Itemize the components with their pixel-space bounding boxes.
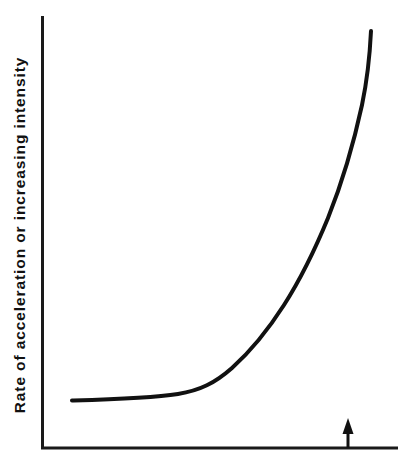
threshold-arrow-icon bbox=[343, 418, 354, 448]
exponential-curve bbox=[72, 31, 371, 401]
plot-area bbox=[0, 0, 411, 469]
threshold-arrow-head bbox=[343, 418, 354, 434]
chart-figure: Rate of acceleration or increasing inten… bbox=[0, 0, 411, 469]
